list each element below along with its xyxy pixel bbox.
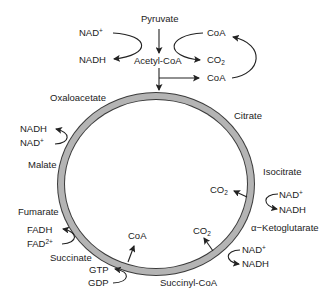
pyruvate-label: Pyruvate	[141, 14, 179, 24]
entry-co2-subscript: 2	[221, 59, 225, 66]
entry-coa-out-label: CoA	[207, 73, 225, 83]
isocitrate-co2-subscript: 2	[224, 189, 228, 196]
entry-nad-text: NAD	[79, 27, 99, 38]
akg-nad-label: NAD+	[242, 245, 266, 255]
fumarate-label: Fumarate	[18, 207, 59, 217]
gtp-label: GTP	[89, 265, 109, 275]
akg-co2-subscript: 2	[207, 230, 211, 237]
malate-nad-text: NAD	[20, 137, 40, 148]
cycle-ring	[57, 92, 255, 276]
alpha-ketoglutarate-label: α−Ketoglutarate	[251, 223, 319, 233]
succinyl-coa-release-label: CoA	[128, 231, 146, 241]
fad-text: FAD	[27, 238, 45, 249]
isocitrate-co2-text: CO	[210, 184, 224, 195]
citric-acid-cycle-diagram: Pyruvate NAD+ NADH Acetyl-CoA CoA CO2 Co…	[0, 0, 335, 302]
gdp-label: GDP	[88, 278, 109, 288]
malate-nad-label: NAD+	[20, 138, 44, 148]
akg-co2-label: CO2	[193, 226, 211, 238]
entry-coa-in-label: CoA	[207, 28, 225, 38]
isocitrate-co2-label: CO2	[210, 185, 228, 197]
isocitrate-nad-text: NAD	[279, 189, 299, 200]
coa-recycle-arrow	[232, 37, 256, 78]
entry-nad-label: NAD+	[79, 28, 103, 38]
isocitrate-nad-charge: +	[299, 189, 303, 196]
akg-nad-charge: +	[262, 244, 266, 251]
malate-nad-arrow	[55, 129, 67, 144]
akg-nad-arrow	[228, 250, 240, 264]
akg-nad-text: NAD	[242, 244, 262, 255]
oxaloacetate-label: Oxaloacetate	[50, 93, 106, 103]
citrate-label: Citrate	[234, 111, 262, 121]
isocitrate-label: Isocitrate	[263, 167, 302, 177]
entry-co2-label: CO2	[207, 55, 225, 67]
isocitrate-nad-arrow	[266, 194, 278, 209]
malate-nadh-label: NADH	[20, 124, 47, 134]
akg-nadh-label: NADH	[242, 259, 269, 269]
isocitrate-nadh-label: NADH	[279, 205, 306, 215]
entry-nadh-label: NADH	[79, 55, 106, 65]
malate-nad-charge: +	[40, 137, 44, 144]
akg-co2-text: CO	[193, 225, 207, 236]
fad-charge: 2+	[45, 238, 52, 245]
fadh-label: FADH	[27, 225, 52, 235]
succinyl-coa-label: Succinyl-CoA	[160, 278, 217, 288]
succinate-label: Succinate	[50, 253, 92, 263]
acetyl-coa-label: Acetyl-CoA	[134, 56, 182, 66]
fad-label: FAD2+	[27, 239, 53, 249]
malate-label: Malate	[28, 160, 57, 170]
entry-co2-text: CO	[207, 54, 221, 65]
isocitrate-nad-label: NAD+	[279, 190, 303, 200]
entry-nad-charge: +	[99, 27, 103, 34]
